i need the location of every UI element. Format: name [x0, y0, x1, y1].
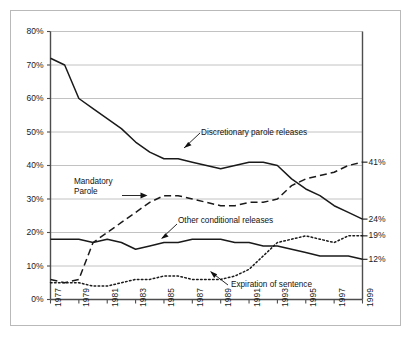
y-axis-label-30%: 30%	[18, 195, 44, 204]
x-axis-label-1991: 1991	[253, 288, 262, 307]
annotation-other-conditional-releases: Other conditional releases	[178, 216, 273, 226]
series-line-expiration-of-sentence	[51, 236, 363, 286]
x-axis-label-1997: 1997	[338, 288, 347, 307]
end-label-mandatory-parole: 41%	[369, 158, 386, 167]
end-label-discretionary-parole-releases: 24%	[369, 215, 386, 224]
end-label-other-conditional-releases: 12%	[369, 255, 386, 264]
series-line-other-conditional-releases	[51, 239, 363, 259]
x-axis-label-1983: 1983	[139, 288, 148, 307]
x-axis-label-1995: 1995	[309, 288, 318, 307]
x-axis-label-1999: 1999	[366, 288, 375, 307]
arrowhead-expiration	[210, 271, 217, 278]
annotation-line: Parole	[74, 187, 113, 197]
end-label-connectors	[363, 162, 368, 259]
annotation-discretionary-parole-releases: Discretionary parole releases	[201, 128, 307, 138]
arrowhead-other-conditional	[161, 233, 169, 239]
end-label-expiration-of-sentence: 19%	[369, 231, 386, 240]
annotation-line: Other conditional releases	[178, 216, 273, 226]
arrowhead-discretionary	[184, 142, 192, 148]
x-axis-label-1987: 1987	[196, 288, 205, 307]
annotation-line: Mandatory	[74, 177, 113, 187]
x-axis-label-1981: 1981	[111, 288, 120, 307]
annotation-leader-lines	[122, 133, 228, 285]
y-axis-label-20%: 20%	[18, 228, 44, 237]
x-axis-label-1989: 1989	[224, 288, 233, 307]
y-axis-label-70%: 70%	[18, 61, 44, 70]
annotation-mandatory-parole: MandatoryParole	[74, 177, 113, 196]
annotation-line: Expiration of sentence	[231, 280, 312, 290]
annotation-expiration-of-sentence: Expiration of sentence	[231, 280, 312, 290]
y-axis-label-80%: 80%	[18, 27, 44, 36]
x-axis-label-1977: 1977	[54, 288, 63, 307]
x-axis-label-1985: 1985	[167, 288, 176, 307]
x-axis-label-1979: 1979	[82, 288, 91, 307]
y-axis-label-0%: 0%	[18, 295, 44, 304]
y-axis-label-50%: 50%	[18, 128, 44, 137]
annotation-line: Discretionary parole releases	[201, 128, 307, 138]
gridlines	[51, 32, 363, 267]
series-lines	[51, 58, 363, 286]
chart-figure: 0%10%20%30%40%50%60%70%80% 1977197919811…	[0, 0, 415, 352]
y-axis-label-10%: 10%	[18, 262, 44, 271]
arrowhead-mandatory	[141, 193, 148, 199]
x-axis-label-1993: 1993	[281, 288, 290, 307]
y-axis-label-60%: 60%	[18, 94, 44, 103]
y-axis-label-40%: 40%	[18, 161, 44, 170]
